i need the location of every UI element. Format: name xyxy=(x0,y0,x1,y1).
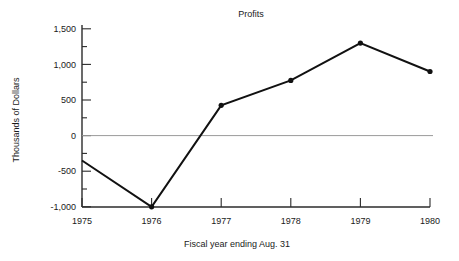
x-tick-label-1975: 1975 xyxy=(72,216,92,226)
x-tick-label-1978: 1978 xyxy=(281,216,301,226)
profits-data-markers xyxy=(149,40,433,209)
chart-screenshot: Profits Thousands of Dollars Fiscal year… xyxy=(0,0,459,261)
y-tick-label-minus500: -500 xyxy=(58,166,76,176)
data-point-1980 xyxy=(427,69,432,74)
data-point-1976 xyxy=(149,204,154,209)
y-tick-label-1000: 1,000 xyxy=(53,60,76,70)
y-tick-label-minus1000: -1,000 xyxy=(50,202,76,212)
data-point-1978 xyxy=(288,78,293,83)
profits-data-line xyxy=(82,43,430,207)
data-point-1979 xyxy=(358,40,363,45)
y-axis-title: Thousands of Dollars xyxy=(11,77,21,163)
x-axis-title: Fiscal year ending Aug. 31 xyxy=(184,239,290,249)
x-tick-label-1980: 1980 xyxy=(420,216,440,226)
x-tick-label-1976: 1976 xyxy=(142,216,162,226)
data-point-1977 xyxy=(219,103,224,108)
x-tick-label-1977: 1977 xyxy=(211,216,231,226)
y-tick-label-1500: 1,500 xyxy=(53,24,76,34)
x-tick-label-1979: 1979 xyxy=(350,216,370,226)
chart-title: Profits xyxy=(238,9,264,19)
y-tick-label-500: 500 xyxy=(61,95,76,105)
x-axis-ticks xyxy=(82,198,430,207)
y-tick-label-0: 0 xyxy=(71,131,76,141)
profits-line-chart: Profits Thousands of Dollars Fiscal year… xyxy=(0,0,459,261)
y-minor-ticks xyxy=(82,47,87,189)
